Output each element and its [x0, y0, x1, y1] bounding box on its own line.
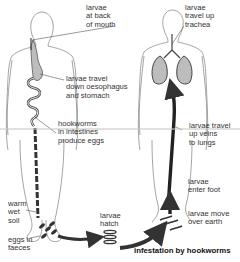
label-eggs-faeces: eggs in faeces	[8, 236, 33, 253]
label-larvae-oesophagus: larvae travel down oesophagus and stomac…	[66, 75, 128, 100]
egg-column	[35, 128, 38, 218]
arrow-eggs-to-hatch	[58, 236, 96, 239]
right-lung	[177, 56, 192, 84]
larvae-on-earth	[160, 216, 182, 230]
diagram-title: infestation by hookworms	[134, 246, 231, 255]
left-lung	[152, 56, 167, 84]
label-warm-soil: warm wet soil	[8, 200, 27, 225]
label-hookworms-intestines: hookworms in intestines produce eggs	[58, 120, 104, 145]
label-larvae-veins: larvae travel up veins to lungs	[189, 122, 230, 147]
label-larvae-mouth: larvae at back of mouth	[86, 4, 116, 29]
label-larvae-hatch: larvae hatch	[100, 212, 121, 229]
arrow-veins-to-lungs	[168, 88, 174, 208]
trachea	[164, 34, 180, 58]
label-larvae-foot: larvae enter foot	[188, 178, 220, 195]
label-larvae-earth: larvae move over earth	[188, 210, 229, 227]
lungs	[152, 34, 192, 84]
hatched-larvae	[104, 230, 116, 243]
intestine-shape	[28, 78, 40, 126]
left-organs	[28, 38, 43, 126]
label-larvae-trachea: larvae travel up trachea	[185, 4, 214, 29]
